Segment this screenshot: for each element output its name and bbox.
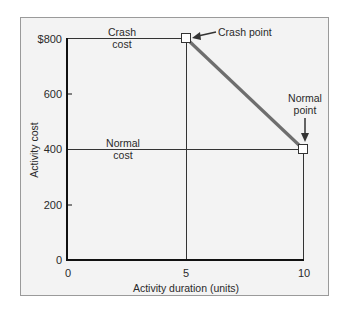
y-tick-label-800: $800: [38, 33, 62, 45]
normal-cost-label-line1: Normal: [106, 137, 140, 149]
y-tick-label-400: 400: [44, 143, 62, 155]
crash-cost-label-line1: Crash: [108, 26, 136, 38]
x-tick-label-0: 0: [65, 267, 71, 279]
x-axis-title: Activity duration (units): [133, 282, 239, 294]
cost-duration-chart: $800 600 400 200 0 0 5 10 Activity durat…: [0, 0, 350, 316]
y-tick-label-200: 200: [44, 199, 62, 211]
normal-point-label-line2: point: [294, 104, 317, 116]
normal-point-marker: [299, 145, 308, 154]
crash-point-marker: [182, 34, 191, 43]
normal-cost-label-line2: cost: [113, 149, 132, 161]
x-tick-label-10: 10: [298, 267, 310, 279]
y-axis-title: Activity cost: [28, 122, 40, 178]
crash-cost-label-line2: cost: [112, 38, 131, 50]
y-tick-label-600: 600: [44, 88, 62, 100]
x-tick-label-5: 5: [183, 267, 189, 279]
crash-point-label: Crash point: [218, 26, 272, 38]
normal-point-label-line1: Normal: [288, 92, 322, 104]
y-tick-label-0: 0: [56, 254, 62, 266]
